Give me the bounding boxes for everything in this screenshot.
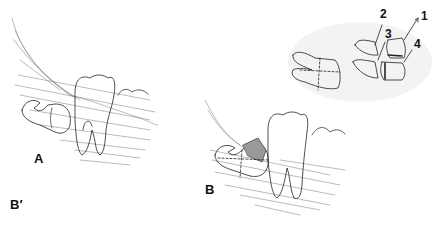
fragment-number-3: 3 [385,28,392,40]
panel-b-section-line [240,150,242,178]
fragment-number-2: 2 [380,8,387,20]
panel-b-crown-section [243,138,266,162]
panel-b-bone [205,100,345,215]
fragment-number-4: 4 [414,38,421,50]
fragment-number-1: 1 [421,10,428,22]
dental-illustration [0,0,435,227]
panel-bprime-stipple [288,22,432,102]
panel-a-bone [12,18,158,165]
panel-label-a: A [34,152,43,165]
panel-b-second-molar [268,112,308,199]
panel-label-b-prime: B′ [10,198,23,211]
panel-label-b: B [205,183,214,196]
